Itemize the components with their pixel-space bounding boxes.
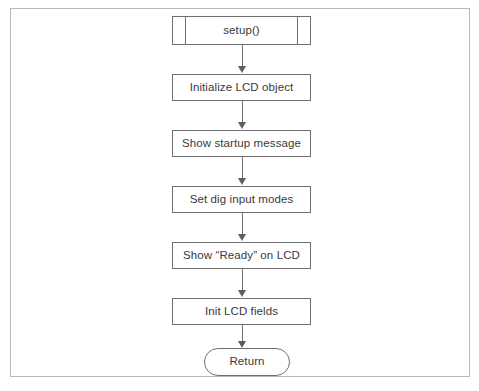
- flow-edge-startup-msg-to-input-modes: [242, 157, 243, 178]
- flow-node-label: Return: [229, 356, 264, 368]
- flow-node-setup: setup(): [172, 16, 311, 45]
- flow-edge-setup-to-init-lcd: [242, 45, 243, 66]
- flow-node-show-ready: Show “Ready” on LCD: [172, 242, 311, 269]
- arrowhead-icon: [238, 122, 246, 129]
- arrowhead-icon: [238, 178, 246, 185]
- arrowhead-icon: [238, 66, 246, 73]
- flow-edge-lcd-fields-to-return: [242, 325, 243, 341]
- flow-edge-input-modes-to-ready-lcd: [242, 213, 243, 234]
- flow-node-init-lcd: Initialize LCD object: [172, 74, 311, 101]
- flow-node-init-lcd-fields: Init LCD fields: [172, 298, 311, 325]
- flow-node-label: Show startup message: [182, 138, 301, 150]
- flow-node-return: Return: [204, 348, 290, 376]
- flow-node-label: Show “Ready” on LCD: [183, 250, 300, 262]
- flow-node-label: setup(): [223, 25, 260, 37]
- flow-edge-init-lcd-to-startup-msg: [242, 101, 243, 122]
- flow-node-label: Set dig input modes: [190, 194, 294, 206]
- flow-edge-ready-lcd-to-lcd-fields: [242, 269, 243, 290]
- arrowhead-icon: [238, 341, 246, 348]
- arrowhead-icon: [238, 290, 246, 297]
- flow-node-label: Initialize LCD object: [190, 82, 294, 94]
- arrowhead-icon: [238, 234, 246, 241]
- flow-node-startup-message: Show startup message: [172, 130, 311, 157]
- predefined-rail-right: [297, 17, 298, 44]
- flowchart-canvas: setup() Initialize LCD object Show start…: [0, 0, 479, 391]
- flow-node-set-input-modes: Set dig input modes: [172, 186, 311, 213]
- flow-node-label: Init LCD fields: [205, 306, 278, 318]
- predefined-rail-left: [185, 17, 186, 44]
